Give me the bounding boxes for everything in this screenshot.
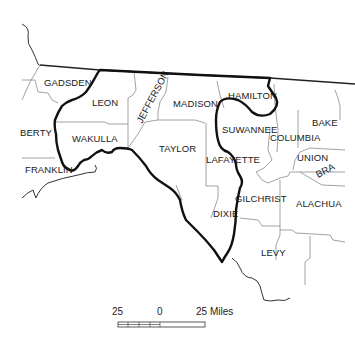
county-label-columbia: COLUMBIA	[270, 132, 321, 143]
scale-label-right: 25 Miles	[196, 306, 233, 317]
coastline-south	[232, 258, 290, 301]
county-label-madison: MADISON	[173, 98, 218, 109]
scale-label-left: 25	[112, 306, 124, 317]
county-label-taylor: TAYLOR	[159, 143, 196, 154]
county-label-union: UNION	[297, 152, 328, 163]
map: GADSDEN LEON JEFFERSON MADISON HAMILTON …	[0, 0, 355, 347]
river-line	[22, 24, 40, 65]
county-label-wakulla: WAKULLA	[72, 133, 118, 144]
scale-bar: 25 0 25 Miles	[112, 306, 233, 327]
map-canvas: GADSDEN LEON JEFFERSON MADISON HAMILTON …	[0, 0, 355, 347]
county-label-gadsden: GADSDEN	[44, 77, 92, 88]
county-label-jefferson: JEFFERSON	[134, 69, 171, 125]
county-label-leon: LEON	[92, 97, 118, 108]
county-label-alachua: ALACHUA	[296, 198, 342, 209]
county-label-bradford: BRA	[314, 160, 337, 179]
county-label-baker: BAKE	[312, 117, 338, 128]
county-label-gilchrist: GILCHRIST	[235, 193, 287, 204]
county-label-dixie: DIXIE	[213, 208, 238, 219]
county-label-franklin: FRANKLIN	[25, 164, 73, 175]
county-label-levy: LEVY	[261, 247, 286, 258]
county-label-lafayette: LAFAYETTE	[206, 154, 260, 165]
county-label-hamilton: HAMILTON	[228, 90, 277, 101]
county-label-liberty: BERTY	[20, 127, 53, 138]
county-labels: GADSDEN LEON JEFFERSON MADISON HAMILTON …	[20, 69, 342, 258]
scale-label-zero: 0	[157, 306, 163, 317]
